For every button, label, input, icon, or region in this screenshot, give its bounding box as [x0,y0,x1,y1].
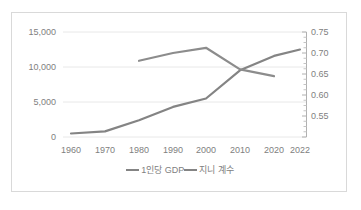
x-axis-tick-2022: 2022 [283,145,317,155]
chart-legend: 1인당 GDP 지니 계수 [12,163,348,176]
x-axis-tick-2010: 2010 [223,145,257,155]
y-axis-left-tick-10000: 10,000 [12,62,56,72]
legend-line-swatch-icon [184,169,197,171]
y-axis-right-tick-070: 0.70 [311,48,345,58]
y-axis-right-tick-055: 0.55 [311,111,345,121]
x-axis-tick-1960: 1960 [54,145,88,155]
legend-item-gdp-per-capita[interactable]: 1인당 GDP [126,163,184,176]
y-axis-left-tick-0: 0 [12,132,56,142]
y-axis-right-tick-060: 0.60 [311,90,345,100]
series-line-gdp-per-capita [71,50,300,134]
x-axis-tick-1980: 1980 [122,145,156,155]
y-axis-left-tick-5000: 5,000 [12,97,56,107]
legend-line-swatch-icon [126,169,139,171]
legend-item-label: 지니 계수 [199,163,234,176]
y-axis-right-tick-065: 0.65 [311,69,345,79]
x-axis-tick-2000: 2000 [189,145,223,155]
legend-item-label: 1인당 GDP [141,163,184,176]
chart-container: 15,000 10,000 5,000 0 0.75 0.70 0.65 0.6… [11,12,347,192]
series-line-gini-coefficient [139,48,274,76]
legend-item-gini-coefficient[interactable]: 지니 계수 [184,163,234,176]
x-axis-tick-1990: 1990 [156,145,190,155]
y-axis-right-tick-075: 0.75 [311,27,345,37]
right-value-axis [302,32,307,137]
gridlines [63,32,306,137]
y-axis-left-tick-15000: 15,000 [12,27,56,37]
x-axis-tick-1970: 1970 [88,145,122,155]
